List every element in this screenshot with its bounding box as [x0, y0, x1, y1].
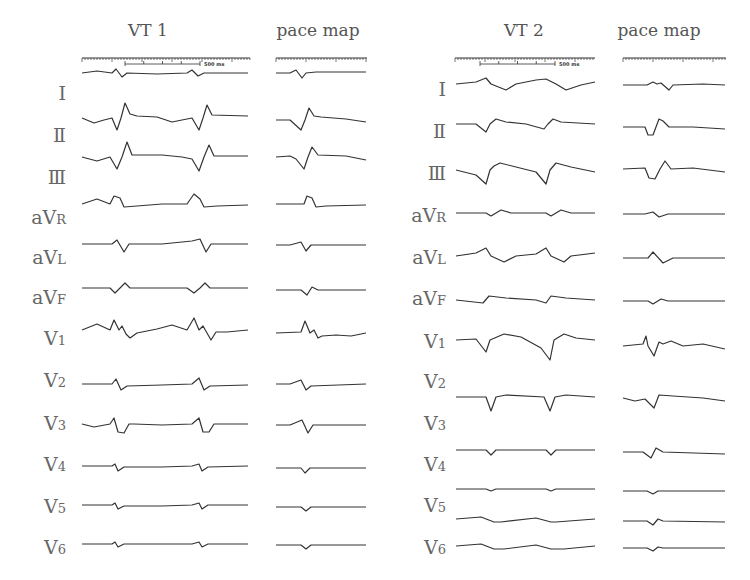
ecg-trace-vt2-pacemap-V5: [623, 519, 725, 525]
ecg-trace-vt1-V5: [82, 503, 248, 509]
ecg-trace-vt2-pacemap-V2: [623, 395, 725, 408]
ecg-trace-vt1-V4: [82, 464, 248, 471]
ecg-trace-vt2-III: [456, 163, 595, 184]
time-scale-vt1: 500 ms: [82, 58, 250, 67]
ecg-trace-vt1-pacemap-V2: [276, 380, 366, 390]
ecg-trace-vt2-aVL: [456, 248, 595, 262]
ecg-trace-vt1-pacemap-V4: [276, 468, 366, 473]
ecg-trace-vt2-pacemap-aVF: [623, 299, 725, 304]
ecg-trace-vt2-pacemap-V3: [623, 448, 725, 458]
ecg-trace-vt1-V3: [82, 418, 248, 433]
scale-label: 500 ms: [204, 61, 224, 67]
ecg-trace-vt2-aVF: [456, 296, 595, 303]
ecg-trace-vt2-V4: [456, 489, 595, 491]
ecg-trace-vt1-aVL: [82, 239, 248, 252]
ecg-trace-vt2-pacemap-V1: [623, 336, 725, 356]
ecg-trace-vt2-V5: [456, 517, 595, 522]
ecg-trace-vt1-pacemap-V3: [276, 420, 366, 433]
ecg-trace-vt2-V6: [456, 544, 595, 549]
ecg-trace-vt2-pacemap-V6: [623, 547, 725, 551]
ecg-trace-vt1-I: [82, 69, 248, 77]
ecg-trace-vt1-V6: [82, 542, 248, 547]
ecg-trace-vt2-V3: [456, 450, 595, 455]
ecg-trace-vt1-pacemap-V1: [276, 321, 366, 338]
ecg-trace-vt1-II: [82, 103, 248, 130]
ecg-trace-vt2-I: [456, 78, 595, 90]
ecg-trace-vt2-pacemap-II: [623, 119, 725, 135]
ecg-trace-vt1-pacemap-aVL: [276, 242, 366, 251]
ecg-trace-vt1-pacemap-aVR: [276, 196, 366, 207]
ecg-trace-vt2-pacemap-aVL: [623, 252, 725, 263]
scale-label: 500 ms: [559, 61, 579, 67]
ecg-trace-vt1-aVR: [82, 194, 248, 207]
ecg-trace-vt1-pacemap-I: [276, 70, 366, 78]
ecg-trace-vt1-V2: [82, 378, 248, 390]
ecg-trace-vt1-III: [82, 142, 248, 171]
ecg-trace-vt2-aVR: [456, 210, 595, 216]
ecg-trace-vt2-V1: [456, 334, 595, 360]
ecg-trace-vt1-aVF: [82, 283, 248, 293]
ecg-trace-vt2-pacemap-III: [623, 161, 725, 179]
ecg-trace-vt2-pacemap-aVR: [623, 212, 725, 217]
ecg-trace-vt1-pacemap-V6: [276, 545, 366, 549]
ecg-trace-vt1-pacemap-V5: [276, 507, 366, 511]
ecg-trace-vt2-II: [456, 119, 595, 132]
ecg-trace-vt1-pacemap-aVF: [276, 287, 366, 295]
ecg-trace-vt1-V1: [82, 318, 248, 340]
ecg-trace-vt1-pacemap-III: [276, 147, 366, 169]
ecg-traces-canvas: 500 ms500 ms: [0, 0, 750, 580]
ecg-trace-vt1-pacemap-II: [276, 108, 366, 130]
ecg-trace-vt2-pacemap-V4: [623, 491, 725, 494]
ecg-trace-vt2-V2: [456, 395, 595, 411]
time-scale-vt1-pacemap: [276, 58, 367, 62]
ecg-trace-vt2-pacemap-I: [623, 82, 725, 90]
time-scale-vt2-pacemap: [623, 58, 726, 62]
time-scale-vt2: 500 ms: [455, 58, 595, 67]
